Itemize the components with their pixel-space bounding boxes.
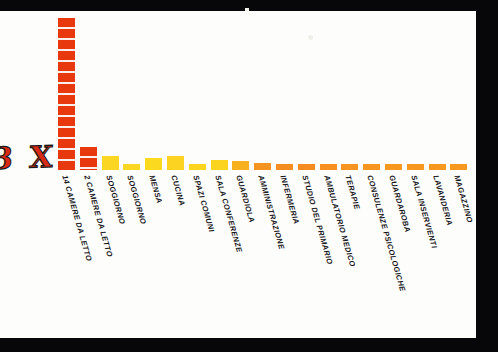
bar: [385, 164, 402, 170]
category-label-slot: AMBULATORIO MEDICO: [320, 172, 337, 322]
bar: [254, 163, 271, 170]
category-label-slot: SALA CONFERENZE: [211, 172, 228, 322]
frame-border-top: [0, 0, 498, 11]
bar: [341, 164, 358, 170]
bar: [167, 156, 184, 170]
category-label-slot: CUCINA: [167, 172, 184, 322]
category-label-slot: SPAZI COMUNI: [189, 172, 206, 322]
category-axis-labels: 14 CAMERE DA LETTO2 CAMERE DA LETTOSOGGI…: [58, 172, 470, 332]
bar-chart-plot: [58, 18, 470, 170]
category-label-slot: CONSULENZE PSICOLOGICHE: [363, 172, 380, 322]
bar: [145, 158, 162, 170]
category-label-slot: MAGAZZINO: [450, 172, 467, 322]
category-label-slot: SALA INSERVIENTI: [407, 172, 424, 322]
category-label: MENSA: [148, 174, 165, 205]
category-label-slot: GUARDAROBA: [385, 172, 402, 322]
handwritten-annotation: 3 X: [0, 139, 49, 177]
bar: [189, 164, 206, 171]
frame-border-bottom: [0, 338, 498, 352]
bar: [450, 164, 467, 170]
category-label-slot: TERAPIE: [341, 172, 358, 322]
figure-page: 3 X 14 CAMERE DA LETTO2 CAMERE DA LETTOS…: [0, 0, 498, 352]
category-label-slot: STUDIO DEL PRIMARIO: [298, 172, 315, 322]
bar: [298, 164, 315, 170]
category-label: CUCINA: [169, 174, 186, 207]
category-label-slot: LAVANDERIA: [429, 172, 446, 322]
category-label-slot: GUARDIOLA: [232, 172, 249, 322]
bar: [58, 18, 75, 170]
bar: [80, 147, 97, 170]
category-label-slot: AMMINISTRAZIONE: [254, 172, 271, 322]
category-label-slot: SOGGIORNO: [123, 172, 140, 322]
bar: [102, 156, 119, 170]
category-label-slot: MENSA: [145, 172, 162, 322]
bar: [407, 164, 424, 170]
bar: [276, 164, 293, 170]
category-label-slot: INFERMERIA: [276, 172, 293, 322]
scan-speckle: [245, 8, 249, 11]
category-label-slot: 14 CAMERE DA LETTO: [58, 172, 75, 322]
bar: [429, 164, 446, 170]
frame-border-right: [476, 0, 498, 352]
bar: [123, 164, 140, 170]
bar: [211, 160, 228, 170]
category-label: TERAPIE: [344, 174, 362, 210]
bar: [320, 164, 337, 170]
bar: [232, 161, 249, 170]
category-label-slot: 2 CAMERE DA LETTO: [80, 172, 97, 322]
bar: [363, 164, 380, 170]
category-label-slot: SOGGIORNO: [102, 172, 119, 322]
